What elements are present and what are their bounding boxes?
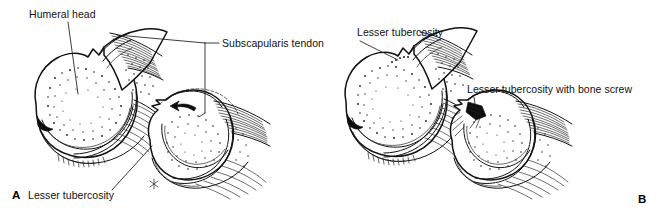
- label-lesser-tubercosity-b: Lesser tubercosity: [357, 26, 444, 38]
- label-lesser-tubercosity-bone-screw: Lesser tubercosity with bone screw: [467, 83, 632, 95]
- asterisk-marker: [150, 179, 158, 189]
- panel-letter-a: A: [12, 189, 20, 201]
- leader-lesser-tubercosity-a: [112, 146, 152, 190]
- panel-a-view-2-detached-tuberosity: [148, 89, 270, 199]
- label-subscapularis-tendon: Subscapularis tendon: [222, 37, 324, 49]
- label-lesser-tubercosity-a: Lesser tubercosity: [28, 189, 115, 201]
- figure-root: Humeral head Subscapularis tendon Lesser…: [0, 0, 661, 216]
- panel-b-group: Lesser tubercosity Lesser tubercosity wi…: [345, 26, 646, 205]
- panel-b-view-2-bone-screw-fixation: [450, 90, 572, 199]
- anatomical-illustration: Humeral head Subscapularis tendon Lesser…: [0, 0, 661, 216]
- panel-a-group: Humeral head Subscapularis tendon Lesser…: [12, 8, 324, 201]
- panel-letter-b: B: [638, 193, 646, 205]
- label-humeral-head: Humeral head: [29, 8, 96, 20]
